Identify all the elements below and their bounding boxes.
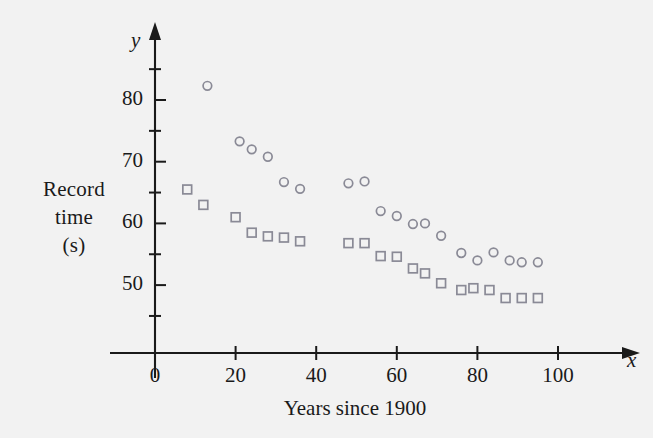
data-point-square-1 xyxy=(199,200,208,209)
data-point-circle-2 xyxy=(247,145,256,154)
x-tick-label-60: 60 xyxy=(367,363,427,388)
data-point-circle-7 xyxy=(360,177,369,186)
y-tick-label-60: 60 xyxy=(97,209,143,234)
data-point-square-2 xyxy=(231,213,240,222)
data-point-square-10 xyxy=(392,252,401,261)
data-point-circle-5 xyxy=(296,185,305,194)
data-point-square-16 xyxy=(485,286,494,295)
x-axis-arrowhead xyxy=(622,347,640,359)
data-point-square-19 xyxy=(533,294,542,303)
data-point-circle-17 xyxy=(517,258,526,267)
data-point-square-6 xyxy=(296,237,305,246)
data-point-square-15 xyxy=(469,284,478,293)
data-point-circle-12 xyxy=(437,231,446,240)
data-point-square-13 xyxy=(437,279,446,288)
data-point-circle-0 xyxy=(203,82,212,91)
data-point-circle-9 xyxy=(393,212,402,221)
data-point-square-9 xyxy=(376,252,385,261)
y-tick-label-70: 70 xyxy=(97,148,143,173)
data-point-circle-18 xyxy=(534,258,543,267)
x-tick-label-40: 40 xyxy=(286,363,346,388)
axes-group xyxy=(110,22,640,378)
data-point-square-12 xyxy=(421,269,430,278)
ticks-group xyxy=(149,69,558,360)
data-point-square-5 xyxy=(280,233,289,242)
x-tick-label-20: 20 xyxy=(206,363,266,388)
data-point-square-17 xyxy=(501,294,510,303)
data-point-circle-13 xyxy=(457,249,466,258)
data-point-square-8 xyxy=(360,239,369,248)
y-tick-label-80: 80 xyxy=(97,86,143,111)
data-point-square-11 xyxy=(409,264,418,273)
data-point-circle-4 xyxy=(280,178,289,187)
data-point-circle-8 xyxy=(376,207,385,216)
data-point-square-3 xyxy=(247,228,256,237)
x-tick-label-100: 100 xyxy=(528,363,588,388)
data-point-square-0 xyxy=(183,185,192,194)
data-point-circle-14 xyxy=(473,256,482,265)
scatter-plot-figure: Record time (s) Years since 1900 y x 506… xyxy=(0,0,653,438)
data-point-square-7 xyxy=(344,239,353,248)
data-point-circle-3 xyxy=(264,152,273,161)
data-point-circle-16 xyxy=(505,256,514,265)
data-point-circle-10 xyxy=(409,220,418,229)
data-point-circle-1 xyxy=(235,137,244,146)
data-point-circle-15 xyxy=(489,248,498,257)
data-points-group xyxy=(183,82,542,303)
y-axis-arrowhead xyxy=(149,22,161,40)
x-tick-label-80: 80 xyxy=(447,363,507,388)
data-point-square-4 xyxy=(263,232,272,241)
data-point-circle-6 xyxy=(344,179,353,188)
data-point-square-14 xyxy=(457,286,466,295)
x-tick-label-0: 0 xyxy=(125,363,185,388)
data-point-circle-11 xyxy=(421,219,430,228)
data-point-square-18 xyxy=(517,294,526,303)
y-tick-label-50: 50 xyxy=(97,271,143,296)
